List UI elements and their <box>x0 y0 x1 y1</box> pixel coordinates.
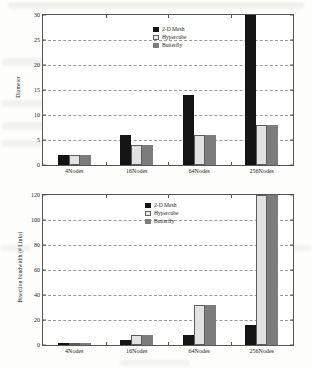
bar-butterfly-64nodes <box>205 135 216 165</box>
x-axis-tick-mark <box>168 162 169 165</box>
bar-group-256nodes <box>245 15 279 165</box>
legend-item-label: 2-D Mesh <box>154 202 177 209</box>
y-axis-tick-label: 25 <box>34 37 40 43</box>
y-axis-tick-mark <box>290 15 293 16</box>
bar-mesh-64nodes <box>183 335 194 345</box>
legend-swatch-hypercube <box>153 35 159 40</box>
bar-butterfly-64nodes <box>205 305 216 345</box>
legend-item-label: Butterfly <box>154 218 174 225</box>
bar-hypercube-256nodes <box>256 125 267 165</box>
y-axis-tick-label: 20 <box>34 62 40 68</box>
y-axis-tick-mark <box>43 15 46 16</box>
bar-butterfly-16nodes <box>142 145 153 165</box>
y-axis-tick-label: 80 <box>34 242 40 248</box>
top-chart-y-axis-label: Diameter <box>15 57 21 117</box>
x-axis-tick-mark <box>168 342 169 345</box>
y-axis-tick-mark <box>290 295 293 296</box>
y-axis-tick-mark <box>43 65 46 66</box>
bar-hypercube-4nodes <box>69 155 80 165</box>
x-axis-tick-mark <box>106 162 107 165</box>
y-axis-tick-mark <box>290 245 293 246</box>
y-axis-tick-label: 20 <box>34 317 40 323</box>
y-axis-tick-mark <box>290 140 293 141</box>
legend-swatch-mesh <box>145 203 151 208</box>
top-chart-plot-area: 0510152025304Nodes16Nodes64Nodes256Nodes… <box>42 14 294 166</box>
bar-group-64nodes <box>182 195 216 345</box>
x-axis-tick-mark <box>106 342 107 345</box>
legend-item: Butterfly <box>145 218 179 225</box>
legend-swatch-butterfly <box>145 219 151 224</box>
x-axis-tick-mark <box>168 15 169 18</box>
y-axis-tick-mark <box>43 345 46 346</box>
x-axis-tick-label: 64Nodes <box>189 168 210 174</box>
legend-item: 2-D Mesh <box>153 26 187 33</box>
y-axis-tick-label: 100 <box>31 217 40 223</box>
y-axis-tick-label: 40 <box>34 292 40 298</box>
y-axis-tick-mark <box>290 320 293 321</box>
y-axis-tick-mark <box>290 90 293 91</box>
y-axis-tick-mark <box>290 220 293 221</box>
bar-hypercube-64nodes <box>194 135 205 165</box>
bar-group-4nodes <box>57 195 91 345</box>
bar-mesh-256nodes <box>245 325 256 345</box>
y-axis-tick-label: 0 <box>37 162 40 168</box>
y-axis-tick-mark <box>43 115 46 116</box>
legend-item: Butterfly <box>153 42 187 49</box>
bar-butterfly-256nodes <box>267 195 278 345</box>
x-axis-tick-mark <box>106 195 107 198</box>
legend-item-label: Butterfly <box>162 42 182 49</box>
bar-butterfly-4nodes <box>80 343 91 346</box>
legend-swatch-mesh <box>153 27 159 32</box>
bar-group-4nodes <box>57 15 91 165</box>
y-axis-tick-label: 10 <box>34 112 40 118</box>
x-axis-tick-mark <box>231 162 232 165</box>
y-axis-tick-mark <box>290 270 293 271</box>
x-axis-tick-mark <box>231 15 232 18</box>
bottom-chart-legend: 2-D MeshHypercubeButterfly <box>143 201 181 226</box>
y-axis-tick-label: 5 <box>37 137 40 143</box>
bar-group-256nodes <box>245 195 279 345</box>
bar-butterfly-256nodes <box>267 125 278 165</box>
x-axis-tick-label: 16Nodes <box>126 348 147 354</box>
legend-item-label: 2-D Mesh <box>162 26 185 33</box>
x-axis-tick-label: 256Nodes <box>250 348 274 354</box>
legend-item-label: Hypercube <box>162 34 187 41</box>
y-axis-tick-label: 120 <box>31 192 40 198</box>
bar-butterfly-4nodes <box>80 155 91 165</box>
y-axis-tick-mark <box>43 40 46 41</box>
y-axis-tick-label: 15 <box>34 87 40 93</box>
bottom-chart-y-axis-label: Bisection bandwidth (# Links) <box>17 197 23 337</box>
bar-hypercube-4nodes <box>69 343 80 346</box>
diameter-chart: Diameter 0510152025304Nodes16Nodes64Node… <box>0 6 312 186</box>
y-axis-tick-mark <box>290 165 293 166</box>
x-axis-tick-label: 4Nodes <box>65 168 83 174</box>
bar-mesh-4nodes <box>58 155 69 165</box>
y-axis-tick-label: 0 <box>37 342 40 348</box>
bar-butterfly-16nodes <box>142 335 153 345</box>
x-axis-tick-label: 64Nodes <box>189 348 210 354</box>
bar-hypercube-64nodes <box>194 305 205 345</box>
y-axis-tick-mark <box>43 140 46 141</box>
legend-item: Hypercube <box>145 210 179 217</box>
legend-swatch-butterfly <box>153 43 159 48</box>
bar-mesh-4nodes <box>58 343 69 346</box>
y-axis-tick-mark <box>43 320 46 321</box>
bar-hypercube-16nodes <box>131 145 142 165</box>
y-axis-tick-mark <box>290 195 293 196</box>
y-axis-tick-mark <box>290 115 293 116</box>
top-chart-legend: 2-D MeshHypercubeButterfly <box>151 25 189 50</box>
y-axis-tick-mark <box>290 40 293 41</box>
bar-group-16nodes <box>120 15 154 165</box>
y-axis-tick-mark <box>43 195 46 196</box>
x-axis-tick-label: 4Nodes <box>65 348 83 354</box>
y-axis-tick-label: 30 <box>34 12 40 18</box>
x-axis-tick-label: 16Nodes <box>126 168 147 174</box>
bar-mesh-16nodes <box>120 135 131 165</box>
bar-mesh-16nodes <box>120 340 131 345</box>
y-axis-tick-mark <box>43 220 46 221</box>
y-axis-tick-mark <box>43 270 46 271</box>
bar-mesh-256nodes <box>245 15 256 165</box>
bisection-bandwidth-chart: Bisection bandwidth (# Links) 0204060801… <box>0 186 312 368</box>
legend-item: 2-D Mesh <box>145 202 179 209</box>
x-axis-tick-mark <box>231 342 232 345</box>
